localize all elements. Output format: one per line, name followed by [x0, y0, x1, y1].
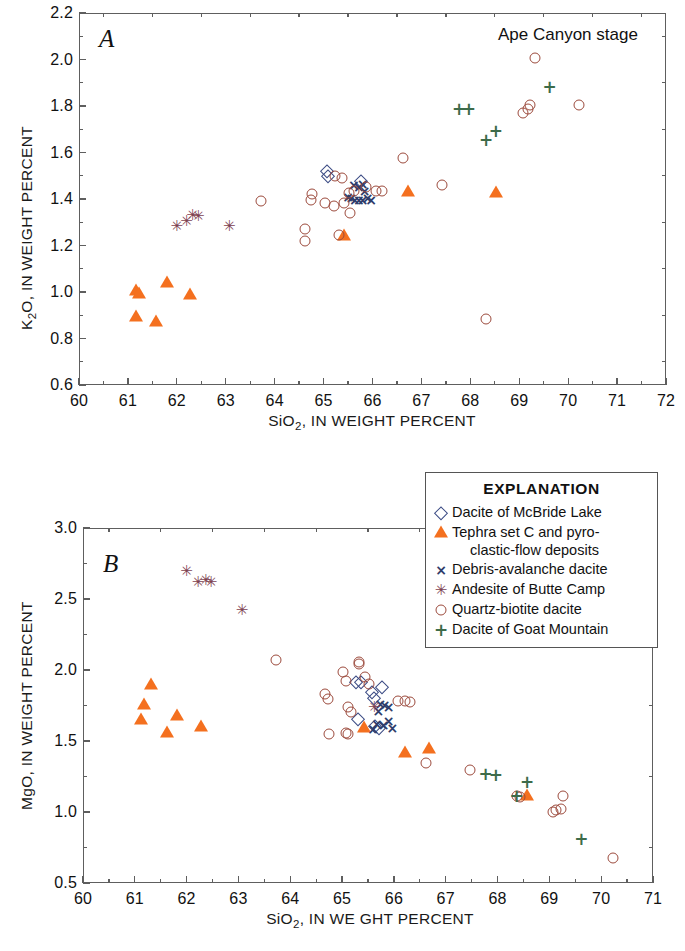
- y-tick-major: [79, 338, 86, 339]
- data-point-circle: [377, 185, 388, 196]
- x-tick-minor: [592, 381, 593, 385]
- data-point-circle: [436, 179, 447, 190]
- data-point-circle: [339, 198, 350, 209]
- data-point-x: ×: [367, 722, 379, 736]
- data-point-star: ✳: [205, 574, 218, 589]
- y-tick-minor: [83, 563, 87, 564]
- legend-label: Debris-avalanche dacite: [452, 560, 608, 578]
- y-tick-label: 2.2: [33, 4, 73, 22]
- data-point-x: ×: [353, 193, 365, 207]
- x-tick-label: 63: [217, 392, 235, 410]
- x-tick-major: [274, 378, 275, 385]
- data-point-plus: +: [489, 766, 503, 783]
- y-tick-major: [79, 59, 86, 60]
- x-tick-minor: [523, 879, 524, 883]
- data-point-circle: [511, 790, 522, 801]
- x-tick-label: 62: [178, 890, 196, 908]
- x-tick-label: 66: [363, 392, 381, 410]
- y-tick-minor: [649, 776, 653, 777]
- data-point-x: ×: [371, 717, 383, 731]
- legend-label: Dacite of Goat Mountain: [452, 620, 608, 638]
- data-point-circle: [344, 188, 355, 199]
- y-tick-label: 1.6: [33, 144, 73, 162]
- x-tick-label: 66: [385, 890, 403, 908]
- x-tick-minor: [160, 528, 161, 532]
- x-tick-major: [225, 378, 226, 385]
- y-tick-major: [79, 12, 86, 13]
- data-point-x: ×: [353, 180, 365, 194]
- x-tick-label: 64: [281, 890, 299, 908]
- data-point-triangle: [489, 186, 503, 198]
- legend-label: Tephra set C and pyro-clastic-flow depos…: [452, 523, 600, 559]
- data-point-x: ×: [346, 191, 358, 205]
- legend-item: +Dacite of Goat Mountain: [433, 620, 650, 639]
- data-point-diamond: [320, 164, 333, 177]
- legend-label: Andesite of Butte Camp: [452, 580, 605, 598]
- y-tick-major: [83, 669, 90, 670]
- y-tick-major: [83, 740, 90, 741]
- x-tick-major: [323, 378, 324, 385]
- y-tick-major: [83, 527, 90, 528]
- data-point-diamond: [373, 721, 386, 734]
- y-tick-label: 1.5: [37, 732, 77, 750]
- x-tick-minor: [160, 879, 161, 883]
- x-axis-title-b: SiO2, IN WE GHT PERCENT: [266, 910, 474, 930]
- panel-a: ×××××××××××✳✳✳✳✳+++++ A Ape Canyon stage…: [0, 0, 685, 445]
- y-tick-major: [79, 105, 86, 106]
- x-tick-minor: [575, 879, 576, 883]
- legend-explanation-box: EXPLANATION Dacite of McBride LakeTephra…: [425, 472, 658, 648]
- data-point-circle: [555, 803, 566, 814]
- x-tick-major: [127, 378, 128, 385]
- y-tick-label: 2.0: [37, 661, 77, 679]
- figure-root: ×××××××××××✳✳✳✳✳+++++ A Ape Canyon stage…: [0, 0, 685, 951]
- y-tick-minor: [83, 634, 87, 635]
- x-tick-minor: [250, 381, 251, 385]
- data-point-circle: [550, 805, 561, 816]
- data-point-x: ×: [349, 193, 361, 207]
- legend-symbol-plus: +: [433, 620, 450, 639]
- data-point-x: ×: [372, 704, 384, 718]
- x-tick-label: 64: [266, 392, 284, 410]
- marker-triangle: [434, 526, 448, 538]
- x-tick-label: 72: [657, 392, 675, 410]
- x-tick-label: 71: [608, 392, 626, 410]
- legend-item: Tephra set C and pyro-clastic-flow depos…: [433, 523, 650, 559]
- x-tick-major: [616, 378, 617, 385]
- x-tick-minor: [396, 13, 397, 17]
- data-point-diamond: [368, 720, 381, 733]
- y-tick-minor: [83, 776, 87, 777]
- x-tick-major: [176, 378, 177, 385]
- y-tick-minor: [662, 361, 666, 362]
- x-tick-minor: [494, 381, 495, 385]
- x-tick-minor: [543, 381, 544, 385]
- y-tick-major: [79, 245, 86, 246]
- data-point-diamond: [322, 169, 335, 182]
- data-point-circle: [255, 196, 266, 207]
- data-point-circle: [359, 671, 370, 682]
- data-point-circle: [353, 657, 364, 668]
- data-point-plus: +: [574, 831, 588, 848]
- data-point-circle: [300, 224, 311, 235]
- y-tick-minor: [662, 175, 666, 176]
- y-tick-label: 1.0: [37, 803, 77, 821]
- data-point-star: ✳: [171, 218, 184, 233]
- y-tick-minor: [662, 315, 666, 316]
- data-point-x: ×: [359, 184, 371, 198]
- data-point-circle: [270, 654, 281, 665]
- x-tick-minor: [103, 381, 104, 385]
- data-point-circle: [515, 792, 526, 803]
- y-tick-label: 0.8: [33, 330, 73, 348]
- data-point-circle: [307, 189, 318, 200]
- data-point-x: ×: [357, 193, 369, 207]
- y-tick-label: 0.5: [37, 874, 77, 892]
- data-point-plus: +: [462, 101, 476, 118]
- data-point-circle: [300, 235, 311, 246]
- x-tick-label: 60: [70, 392, 88, 410]
- data-point-circle: [465, 764, 476, 775]
- data-point-triangle: [422, 742, 436, 754]
- data-point-x: ×: [378, 718, 390, 732]
- data-point-triangle: [137, 698, 151, 710]
- data-point-star: ✳: [236, 602, 249, 617]
- data-point-star: ✳: [223, 218, 236, 233]
- data-point-star: ✳: [180, 213, 193, 228]
